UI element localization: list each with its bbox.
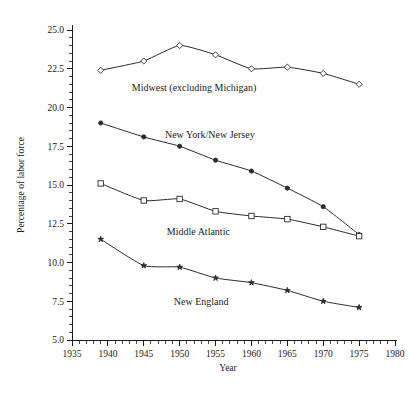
figure-container: 5.07.510.012.515.017.520.022.525.0 Perce… <box>0 0 409 396</box>
data-point-marker <box>99 121 103 125</box>
data-point-marker <box>248 66 254 72</box>
data-point-marker <box>321 224 326 229</box>
data-point-marker <box>141 198 146 203</box>
data-point-marker <box>284 64 290 70</box>
y-tick-label: 12.5 <box>47 219 64 229</box>
y-tick-label: 15.0 <box>47 180 64 190</box>
data-point-marker <box>285 216 290 221</box>
x-tick-label: 1965 <box>278 349 297 359</box>
x-tick-label: 1940 <box>98 349 117 359</box>
y-tick-label: 25.0 <box>47 25 64 35</box>
data-point-marker <box>321 205 325 209</box>
x-axis: 1935194019451950195519601965197019751980… <box>63 340 405 373</box>
data-point-marker <box>141 263 147 268</box>
y-axis-tick-labels: 5.07.510.012.515.017.520.022.525.0 <box>47 25 64 345</box>
data-point-marker <box>284 287 290 292</box>
data-point-marker <box>213 209 218 214</box>
data-point-marker <box>142 135 146 139</box>
data-point-marker <box>178 144 182 148</box>
x-tick-label: 1980 <box>386 349 405 359</box>
data-point-marker <box>249 213 254 218</box>
data-point-marker <box>141 58 147 64</box>
series-line <box>101 123 359 235</box>
data-point-marker <box>320 70 326 76</box>
x-tick-label: 1935 <box>63 349 82 359</box>
data-point-marker <box>356 233 361 238</box>
series-label: New England <box>174 296 229 307</box>
x-axis-tick-labels: 1935194019451950195519601965197019751980 <box>63 349 405 359</box>
x-tick-label: 1960 <box>242 349 261 359</box>
x-axis-title: Year <box>219 363 237 373</box>
y-tick-label: 7.5 <box>52 297 64 307</box>
y-tick-label: 5.0 <box>52 335 64 345</box>
data-point-marker <box>356 304 362 309</box>
series-label: Midwest (excluding Michigan) <box>132 82 256 94</box>
data-point-marker <box>98 181 103 186</box>
data-point-marker <box>356 81 362 87</box>
data-point-marker <box>213 158 217 162</box>
y-axis: 5.07.510.012.515.017.520.022.525.0 Perce… <box>16 25 72 345</box>
data-point-marker <box>249 280 255 285</box>
y-tick-label: 10.0 <box>47 258 64 268</box>
series-label: New York/New Jersey <box>165 129 255 140</box>
figure-caption <box>40 384 370 394</box>
data-point-marker <box>177 264 183 269</box>
data-point-marker <box>98 67 104 73</box>
y-axis-title: Percentage of labor force <box>16 137 26 233</box>
series-labels-group: Midwest (excluding Michigan)New York/New… <box>132 82 256 307</box>
series-line <box>101 239 359 307</box>
data-point-marker <box>177 196 182 201</box>
x-tick-label: 1945 <box>134 349 153 359</box>
y-axis-ticks <box>67 30 72 340</box>
data-point-marker <box>249 169 253 173</box>
x-tick-label: 1975 <box>350 349 369 359</box>
data-point-marker <box>320 298 326 303</box>
x-tick-label: 1970 <box>314 349 333 359</box>
data-point-marker <box>285 186 289 190</box>
y-tick-label: 20.0 <box>47 103 64 113</box>
data-point-marker <box>212 52 218 58</box>
x-tick-label: 1955 <box>206 349 225 359</box>
line-chart: 5.07.510.012.515.017.520.022.525.0 Perce… <box>0 0 409 396</box>
series-label: Middle Atlantic <box>167 226 231 237</box>
x-axis-ticks <box>72 340 395 346</box>
y-tick-label: 17.5 <box>47 142 64 152</box>
data-point-marker <box>177 42 183 48</box>
x-tick-label: 1950 <box>170 349 189 359</box>
y-tick-label: 22.5 <box>47 64 64 74</box>
data-point-marker <box>213 275 219 280</box>
series-line <box>101 45 359 84</box>
